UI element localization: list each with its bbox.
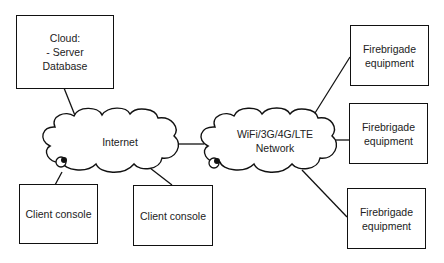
edge-wireless-fire1 <box>315 57 350 113</box>
client1-label: Client console <box>26 207 92 221</box>
connector-knot-icon <box>209 158 220 168</box>
internet-label: Internet <box>102 136 138 148</box>
node-firebrigade-equipment-3: Firebrigade equipment <box>347 188 426 249</box>
connector-knot-icon <box>56 157 67 167</box>
server-label-line1: Cloud: <box>50 32 80 44</box>
node-firebrigade-equipment-2: Firebrigade equipment <box>349 103 428 164</box>
node-server-database: Cloud: - Server Database <box>16 15 114 89</box>
edge-wireless-fire3 <box>302 170 347 217</box>
server-label-line2: - Server <box>46 46 83 58</box>
fire2-label-line2: equipment <box>364 135 413 147</box>
cloud-internet-label: Internet <box>80 135 160 149</box>
fire3-label-line2: equipment <box>362 220 411 232</box>
fire1-label-line2: equipment <box>365 57 414 69</box>
server-label-line3: Database <box>43 60 88 72</box>
fire2-label-line1: Firebrigade <box>362 121 415 133</box>
wireless-label-line1: WiFi/3G/4G/LTE <box>237 128 313 140</box>
node-firebrigade-equipment-1: Firebrigade equipment <box>350 25 429 86</box>
fire3-label-line1: Firebrigade <box>360 206 413 218</box>
edge-internet-client2 <box>150 168 172 185</box>
fire1-label-line1: Firebrigade <box>363 43 416 55</box>
node-client-console-1: Client console <box>19 184 98 244</box>
node-client-console-2: Client console <box>133 185 213 246</box>
wireless-label-line2: Network <box>256 142 295 154</box>
client2-label: Client console <box>140 209 206 223</box>
cloud-wireless-label: WiFi/3G/4G/LTE Network <box>220 127 330 155</box>
